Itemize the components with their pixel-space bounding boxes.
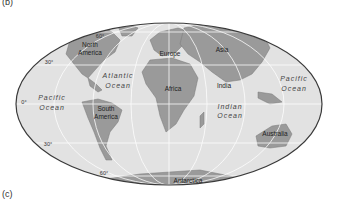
label-south-america-1: South	[98, 105, 115, 112]
label-lat-30n: 30°	[45, 59, 53, 65]
label-lat-60n: 60°	[96, 33, 104, 39]
label-atlantic-2: Ocean	[105, 82, 131, 89]
label-pacific-west-1: Pacific	[38, 94, 66, 101]
label-lat-0: 0°	[21, 99, 26, 105]
label-indian-2: Ocean	[217, 112, 243, 119]
label-europe: Europe	[160, 50, 181, 58]
label-pacific-east-2: Ocean	[281, 85, 307, 92]
label-africa: Africa	[165, 85, 182, 92]
world-map: North America Europe Asia Africa India S…	[0, 0, 338, 204]
label-antarctica: Antarctica	[174, 177, 203, 184]
label-south-america-2: America	[94, 113, 118, 120]
label-atlantic-1: Atlantic	[102, 72, 134, 79]
label-india: India	[217, 82, 231, 89]
label-indian-1: Indian	[217, 103, 242, 110]
label-lat-60s: 60°	[100, 170, 108, 176]
label-lat-30s: 30°	[44, 141, 52, 147]
label-pacific-west-2: Ocean	[39, 104, 65, 111]
label-australia: Australia	[262, 130, 288, 137]
label-north-america-1: North	[82, 41, 98, 48]
label-pacific-east-1: Pacific	[280, 75, 308, 82]
label-north-america-2: America	[78, 49, 102, 56]
label-asia: Asia	[216, 46, 229, 53]
